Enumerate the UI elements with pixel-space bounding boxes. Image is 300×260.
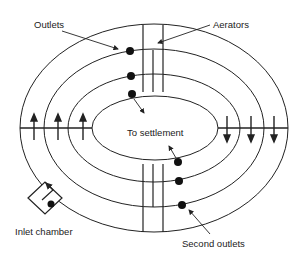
outlet-dot [128,90,136,98]
second-outlet-dot [174,158,182,166]
to-settlement-arrow-top [134,99,144,113]
inlet-dot [48,201,55,208]
outlets-label: Outlets [34,19,64,30]
to-settlement-arrow-bottom [169,146,176,158]
outlet-dot [127,72,135,80]
aerators-bottom [143,164,163,232]
inlet-chamber-label: Inlet chamber [15,226,73,237]
flow-arrows-left [31,114,86,140]
second-outlet-dot [175,177,183,185]
outlet-dots-bottom [174,158,186,209]
outlet-dots-top [126,47,136,98]
second-outlets-pointer-arrow [189,210,210,234]
flow-arrows-right [224,116,277,142]
second-outlet-dot [178,201,186,209]
inlet-chamber [28,182,62,214]
oxidation-ditch-diagram: Outlets Aerators To settlement Inlet cha… [0,0,300,260]
aerators-pointer-arrow [158,25,210,43]
outlet-dot [126,47,134,55]
to-settlement-label: To settlement [127,127,184,138]
aerators-top [143,25,163,92]
aerators-label: Aerators [213,19,249,30]
second-outlets-label: Second outlets [182,238,245,249]
